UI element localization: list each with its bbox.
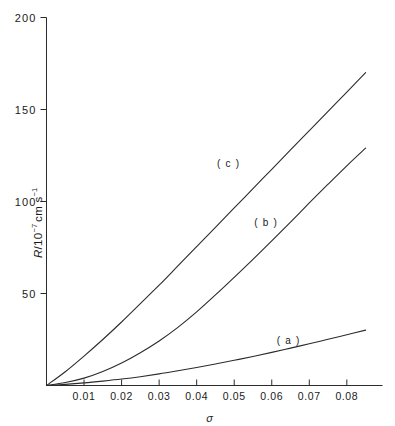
- y-axis-symbol: R: [32, 249, 44, 258]
- chart-plot-area: 50100150200 0.010.020.030.040.050.060.07…: [0, 0, 395, 426]
- x-axis-tick-label: 0.03: [148, 390, 171, 402]
- chart-curves: [47, 73, 366, 386]
- x-axis-tick-label: 0.06: [260, 390, 283, 402]
- y-axis-units: cm s: [32, 196, 44, 221]
- chart-curve-label-c: ( c ): [217, 158, 240, 169]
- x-axis-tick-label: 0.01: [73, 390, 96, 402]
- y-axis-tick-label: 200: [15, 12, 37, 24]
- y-axis-mantissa: 10: [32, 232, 44, 245]
- x-axis-tick-label: 0.05: [223, 390, 246, 402]
- x-axis-tick-label: 0.07: [298, 390, 321, 402]
- x-axis: 0.010.020.030.040.050.060.070.08: [47, 380, 383, 402]
- chart-curve-b: [47, 148, 366, 385]
- chart-curve-label-b: ( b ): [254, 217, 278, 228]
- x-axis-title-text: σ: [206, 412, 213, 424]
- x-axis-title: σ: [206, 412, 213, 424]
- y-axis-title: R/10−7cm s−1: [30, 58, 48, 258]
- chart-curve-label-a: ( a ): [277, 335, 301, 346]
- y-axis-slash: /: [32, 246, 44, 250]
- chart-curve-c: [47, 73, 366, 386]
- chart-figure: 50100150200 0.010.020.030.040.050.060.07…: [0, 0, 395, 426]
- x-axis-tick-label: 0.08: [335, 390, 358, 402]
- chart-curve-labels: ( a )( b )( c ): [217, 158, 301, 346]
- y-axis-units-exponent: −1: [30, 188, 39, 197]
- y-axis-exponent: −7: [30, 224, 39, 233]
- x-axis-tick-label: 0.02: [110, 390, 133, 402]
- y-axis-tick-label: 50: [22, 288, 36, 300]
- chart-curve-a: [47, 330, 366, 385]
- x-axis-tick-label: 0.04: [185, 390, 208, 402]
